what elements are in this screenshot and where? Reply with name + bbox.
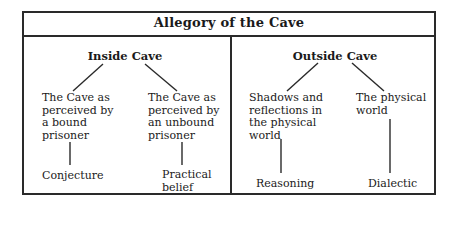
leaf-practical-belief: Practical belief — [162, 169, 212, 194]
connector-inside-left — [73, 64, 103, 91]
connector-inside-right — [145, 64, 177, 91]
connector-outside-left — [287, 63, 318, 91]
node-physical-world: The physical world — [356, 92, 426, 117]
node-bound-prisoner: The Cave as perceived by a bound prisone… — [42, 92, 114, 142]
node-shadows-reflections: Shadows and reflections in the physical … — [249, 92, 323, 142]
node-unbound-prisoner: The Cave as perceived by an unbound pris… — [148, 92, 220, 142]
connector-outside-right — [352, 63, 384, 91]
leaf-conjecture: Conjecture — [42, 170, 103, 183]
leaf-reasoning: Reasoning — [256, 178, 314, 191]
leaf-dialectic: Dialectic — [368, 178, 417, 191]
heading-outside-cave: Outside Cave — [293, 49, 378, 63]
heading-inside-cave: Inside Cave — [88, 49, 163, 63]
